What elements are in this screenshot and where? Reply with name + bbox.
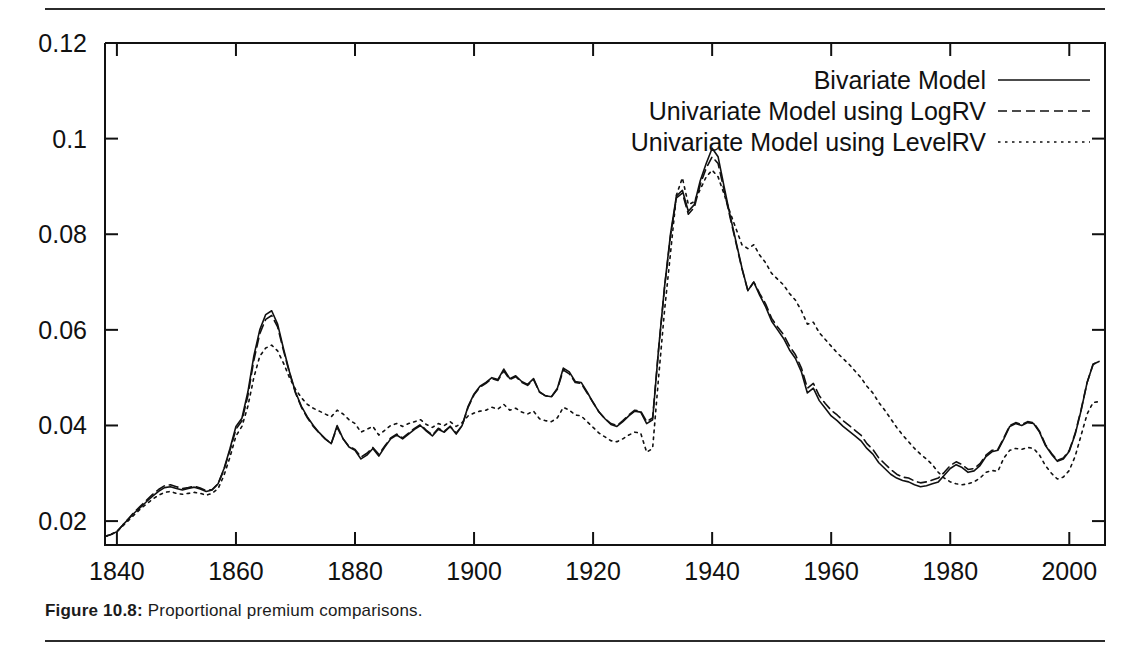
x-tick-label: 1860 — [208, 557, 264, 585]
x-tick-label: 1980 — [922, 557, 978, 585]
figure-caption-label: Figure 10.8: — [45, 601, 143, 620]
x-tick-label: 1880 — [327, 557, 383, 585]
x-tick-label: 1900 — [446, 557, 502, 585]
x-tick-label: 1940 — [684, 557, 740, 585]
legend-label-0: Bivariate Model — [814, 66, 986, 94]
x-tick-label: 1960 — [803, 557, 859, 585]
y-tick-label: 0.02 — [38, 507, 87, 535]
data-series-group — [105, 148, 1099, 536]
series-line-dashed — [105, 157, 1099, 537]
figure-caption: Figure 10.8: Proportional premium compar… — [45, 600, 1105, 622]
series-line-solid — [105, 148, 1099, 536]
x-tick-label: 1920 — [565, 557, 621, 585]
y-tick-label: 0.04 — [38, 411, 87, 439]
figure-caption-text: Proportional premium comparisons. — [148, 601, 423, 620]
legend-label-1: Univariate Model using LogRV — [649, 97, 987, 125]
y-tick-label: 0.12 — [38, 29, 87, 57]
legend-label-2: Univariate Model using LevelRV — [631, 128, 987, 156]
page-rule-top — [45, 8, 1105, 10]
chart-legend: Bivariate ModelUnivariate Model using Lo… — [631, 66, 1090, 156]
y-tick-label: 0.1 — [52, 125, 87, 153]
page-rule-bottom — [45, 640, 1105, 642]
x-axis-tick-labels: 184018601880190019201940196019802000 — [89, 557, 1097, 585]
x-tick-label: 2000 — [1041, 557, 1097, 585]
y-axis-tick-labels: 0.020.040.060.080.10.12 — [38, 29, 87, 535]
line-chart: 0.020.040.060.080.10.12 1840186018801900… — [0, 18, 1143, 588]
x-tick-label: 1840 — [89, 557, 145, 585]
y-tick-label: 0.06 — [38, 316, 87, 344]
figure-page: 0.020.040.060.080.10.12 1840186018801900… — [0, 0, 1143, 662]
y-tick-label: 0.08 — [38, 220, 87, 248]
figure-plot-area: 0.020.040.060.080.10.12 1840186018801900… — [0, 18, 1143, 588]
